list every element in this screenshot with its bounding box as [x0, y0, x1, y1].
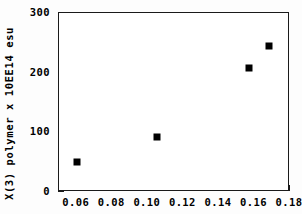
data-series: [59, 13, 288, 190]
data-point: [265, 43, 272, 50]
data-point: [246, 64, 253, 71]
data-point: [73, 159, 80, 166]
x-tick-label: 0.18: [259, 196, 302, 208]
chart-figure: X(3) polymer x 10EE14 esu 0100200300 0.0…: [0, 0, 302, 214]
y-tick-label: 300: [4, 6, 50, 18]
y-tick-major: [58, 191, 64, 192]
x-tick-major: [289, 185, 290, 191]
data-point: [153, 133, 160, 140]
y-tick-label: 100: [4, 125, 50, 137]
y-tick-label: 200: [4, 66, 50, 78]
y-tick-label: 0: [4, 185, 50, 197]
plot-area: [58, 12, 289, 191]
y-axis-title: X(3) polymer x 10EE14 esu: [0, 0, 18, 200]
